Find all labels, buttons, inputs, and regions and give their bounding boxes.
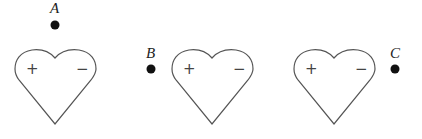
point-b-label: B xyxy=(146,45,155,61)
point-c: C xyxy=(390,45,401,74)
heart-1: + − xyxy=(15,50,96,124)
point-c-label: C xyxy=(390,45,401,61)
point-b-dot xyxy=(147,65,156,74)
point-b: B xyxy=(146,45,156,74)
point-c-dot xyxy=(391,65,400,74)
minus-sign: − xyxy=(76,60,89,78)
point-a-label: A xyxy=(49,0,60,16)
heart-2: + − xyxy=(172,50,253,124)
minus-sign: − xyxy=(233,60,246,78)
point-a-dot xyxy=(51,21,60,30)
plus-sign: + xyxy=(183,60,196,78)
plus-sign: + xyxy=(26,60,39,78)
diagram-canvas: + − + − + − A B C xyxy=(0,0,422,139)
heart-3: + − xyxy=(294,50,375,124)
minus-sign: − xyxy=(355,60,368,78)
plus-sign: + xyxy=(305,60,318,78)
point-a: A xyxy=(49,0,60,30)
